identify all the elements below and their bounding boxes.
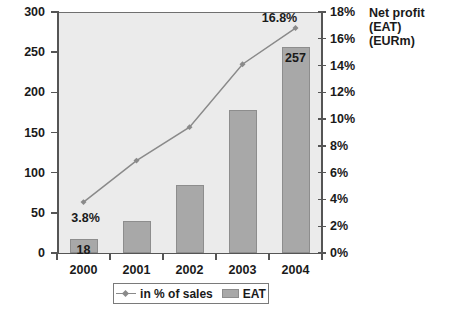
chart-legend: in % of sales EAT bbox=[113, 283, 269, 304]
legend-item-bar: EAT bbox=[222, 288, 266, 300]
legend-item-line: in % of sales bbox=[116, 288, 213, 300]
legend-box-swatch-icon bbox=[222, 289, 239, 298]
right-axis-title-line2: (EURm) bbox=[369, 34, 450, 48]
legend-label-bar: EAT bbox=[243, 288, 266, 300]
chart-figure: 050100150200250300 0%2%4%6%8%10%12%14%16… bbox=[0, 0, 450, 316]
legend-line-marker-icon bbox=[116, 289, 136, 299]
line-path bbox=[84, 28, 296, 202]
legend-label-line: in % of sales bbox=[140, 288, 213, 300]
right-axis-title-line1: Net profit (EAT) bbox=[369, 6, 450, 34]
right-axis-title: Net profit (EAT) (EURm) bbox=[369, 6, 450, 48]
line-value-label-2000: 3.8% bbox=[59, 212, 113, 225]
line-value-label-2004: 16.8% bbox=[253, 12, 307, 25]
